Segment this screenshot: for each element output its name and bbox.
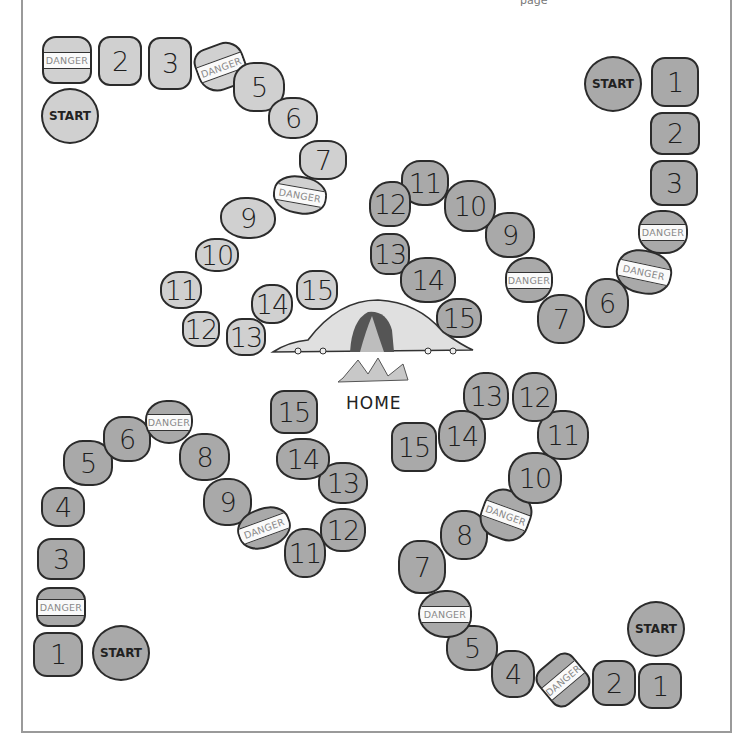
tr-square-2[interactable]: 2	[650, 112, 700, 155]
br-square-1[interactable]: 1	[638, 663, 682, 709]
tr-square-12[interactable]: 12	[369, 181, 411, 227]
br-square-4[interactable]: 4	[491, 650, 535, 698]
tr-square-6[interactable]: 6	[585, 278, 629, 328]
start-space-top-left[interactable]: START	[41, 88, 99, 144]
br-square-6-danger[interactable]: DANGER	[418, 590, 472, 638]
tl-square-6[interactable]: 6	[268, 97, 318, 139]
bl-square-8[interactable]: 8	[179, 433, 230, 481]
bl-square-6[interactable]: 6	[103, 416, 151, 462]
tl-square-11[interactable]: 11	[160, 271, 202, 309]
tr-square-4-danger[interactable]: DANGER	[638, 210, 688, 254]
start-space-bottom-right[interactable]: START	[627, 601, 685, 657]
br-square-7[interactable]: 7	[398, 540, 446, 594]
tl-square-13[interactable]: 13	[226, 318, 266, 356]
bl-square-15[interactable]: 15	[270, 390, 318, 434]
tl-square-3[interactable]: 3	[148, 37, 192, 90]
tr-square-10[interactable]: 10	[444, 180, 496, 232]
bl-square-12[interactable]: 12	[320, 508, 366, 552]
bl-square-4[interactable]: 4	[41, 487, 85, 527]
br-square-14[interactable]: 14	[438, 410, 486, 462]
bl-square-2-danger[interactable]: DANGER	[36, 587, 86, 627]
header-fragment: page	[520, 0, 547, 7]
tr-square-8-danger[interactable]: DANGER	[505, 257, 553, 303]
start-space-top-right[interactable]: START	[584, 56, 642, 112]
tr-square-7[interactable]: 7	[537, 294, 585, 344]
tl-square-9[interactable]: 9	[220, 197, 276, 239]
tr-square-1[interactable]: 1	[651, 57, 699, 107]
bl-square-1[interactable]: 1	[33, 632, 83, 677]
bl-square-14[interactable]: 14	[276, 438, 330, 480]
tl-square-2[interactable]: 2	[98, 36, 142, 86]
tr-square-3[interactable]: 3	[650, 160, 698, 206]
br-square-12[interactable]: 12	[512, 372, 557, 422]
bl-square-3[interactable]: 3	[37, 538, 85, 580]
home-label: HOME	[346, 393, 402, 413]
tl-square-12[interactable]: 12	[182, 311, 220, 347]
br-square-2[interactable]: 2	[592, 660, 636, 706]
cave-with-campfire-icon	[268, 290, 478, 390]
start-space-bottom-left[interactable]: START	[92, 625, 150, 681]
tl-square-7[interactable]: 7	[299, 140, 347, 180]
tl-square-10[interactable]: 10	[195, 238, 239, 272]
br-square-10[interactable]: 10	[508, 452, 562, 504]
tl-square-1-danger[interactable]: DANGER	[42, 36, 92, 84]
br-square-15[interactable]: 15	[391, 422, 437, 472]
